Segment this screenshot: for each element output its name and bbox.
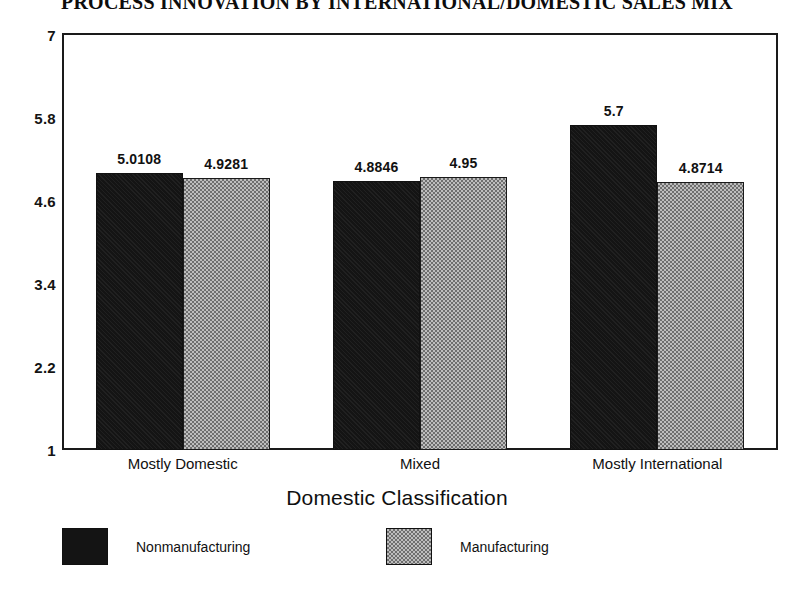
bar-value-label: 4.8846 xyxy=(354,159,398,175)
bar xyxy=(570,125,657,450)
legend-label: Manufacturing xyxy=(460,539,549,555)
bar xyxy=(96,173,183,450)
bar-group: 4.88464.95 xyxy=(333,35,507,450)
y-axis-tick-label: 7 xyxy=(0,27,56,44)
x-axis-category-label: Mostly Domestic xyxy=(128,455,238,472)
legend-label: Nonmanufacturing xyxy=(136,539,250,555)
legend-swatch xyxy=(62,528,108,565)
x-axis-category-label: Mixed xyxy=(400,455,440,472)
bar-value-label: 5.7 xyxy=(604,103,624,119)
y-axis-tick-label: 3.4 xyxy=(0,276,56,293)
bar xyxy=(333,181,420,450)
legend-item: Nonmanufacturing xyxy=(62,528,250,565)
bar xyxy=(420,177,507,450)
y-axis-tick-label: 4.6 xyxy=(0,193,56,210)
y-axis-tick-label: 5.8 xyxy=(0,110,56,127)
y-axis-tick-label: 2.2 xyxy=(0,359,56,376)
x-axis-categories: Mostly DomesticMixedMostly International xyxy=(64,455,776,481)
y-axis: 75.84.63.42.21 xyxy=(0,0,56,600)
bar-group: 5.01084.9281 xyxy=(96,35,270,450)
y-axis-tick-label: 1 xyxy=(0,442,56,459)
chart-title: PROCESS INNOVATION BY INTERNATIONAL/DOME… xyxy=(0,0,794,14)
bar-group: 5.74.8714 xyxy=(570,35,744,450)
legend-item: Manufacturing xyxy=(386,528,549,565)
x-axis-title: Domestic Classification xyxy=(0,486,794,510)
legend-swatch xyxy=(386,528,432,565)
bar xyxy=(183,178,270,450)
x-axis-category-label: Mostly International xyxy=(592,455,722,472)
chart-legend: NonmanufacturingManufacturing xyxy=(0,528,794,588)
bar-value-label: 4.95 xyxy=(449,155,477,171)
bars-layer: 5.01084.92814.88464.955.74.8714 xyxy=(64,35,776,450)
bar-value-label: 5.0108 xyxy=(117,151,161,167)
bar-value-label: 4.8714 xyxy=(679,160,723,176)
bar xyxy=(657,182,744,450)
bar-value-label: 4.9281 xyxy=(204,156,248,172)
